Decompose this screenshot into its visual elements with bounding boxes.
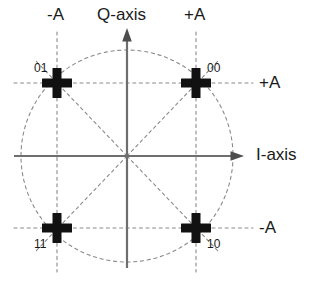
symbol-label-10: 10 [207,238,220,250]
radial-line-00 [127,61,218,156]
symbol-label-11: 11 [34,238,46,250]
radial-line-01 [36,61,127,156]
label-q-plus-a-right: +A [259,74,280,91]
label-i-minus-a-top: -A [47,6,64,23]
q-axis [122,28,132,268]
i-axis-arrowhead [231,151,245,161]
q-axis-arrowhead [122,28,132,42]
label-i-axis: I-axis [256,146,297,163]
label-i-plus-a-top: +A [184,6,205,23]
i-axis [14,151,244,161]
symbol-label-01: 01 [34,62,47,74]
symbol-label-00: 00 [207,62,220,74]
radial-line-11 [36,156,127,251]
label-q-axis: Q-axis [97,6,146,23]
label-q-minus-a-right: -A [259,219,276,236]
qpsk-constellation-figure: -A Q-axis +A 01 00 +A I-axis -A 11 10 [0,0,309,284]
radial-line-10 [127,156,218,251]
